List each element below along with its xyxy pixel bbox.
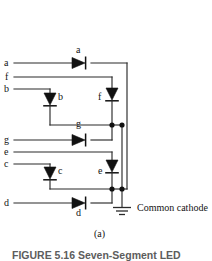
diode-e-triangle — [106, 160, 118, 172]
diode-label-c: c — [58, 166, 62, 176]
subfigure-label: (a) — [94, 228, 105, 239]
diode-c-triangle — [44, 167, 56, 179]
common-cathode-label: Common cathode — [137, 202, 208, 213]
ground-icon — [113, 208, 131, 215]
diode-b-triangle — [44, 93, 56, 105]
branch-d — [14, 189, 112, 210]
junction-dot-d-left — [109, 186, 114, 191]
diode-g-triangle — [72, 135, 85, 146]
diode-label-a: a — [76, 45, 80, 55]
diode-label-f: f — [98, 92, 101, 102]
diode-label-b: b — [58, 92, 63, 102]
diode-label-e: e — [98, 166, 102, 176]
diode-a-triangle — [72, 58, 85, 69]
terminal-label-f: f — [5, 72, 8, 82]
branch-f — [14, 77, 119, 125]
terminal-label-c: c — [4, 159, 8, 169]
branch-e — [14, 152, 119, 189]
branch-g — [14, 125, 112, 147]
terminal-label-e: e — [4, 147, 8, 157]
junction-dot-g-right — [119, 122, 124, 127]
seven-segment-led-figure: a f b g e c d a b f g c e d Common catho… — [0, 0, 212, 261]
terminal-label-d: d — [4, 198, 9, 208]
terminal-label-g: g — [4, 135, 9, 145]
junction-dot-d-right — [119, 186, 124, 191]
terminal-label-a: a — [4, 58, 8, 68]
junction-dot-g-left — [109, 122, 114, 127]
branch-a — [14, 57, 127, 190]
diode-f-triangle — [106, 88, 118, 100]
circuit-schematic — [0, 0, 212, 261]
terminal-label-b: b — [4, 84, 9, 94]
figure-caption: FIGURE 5.16 Seven-Segment LED — [12, 249, 202, 261]
diode-label-g: g — [76, 119, 81, 129]
diode-label-d: d — [76, 208, 81, 218]
